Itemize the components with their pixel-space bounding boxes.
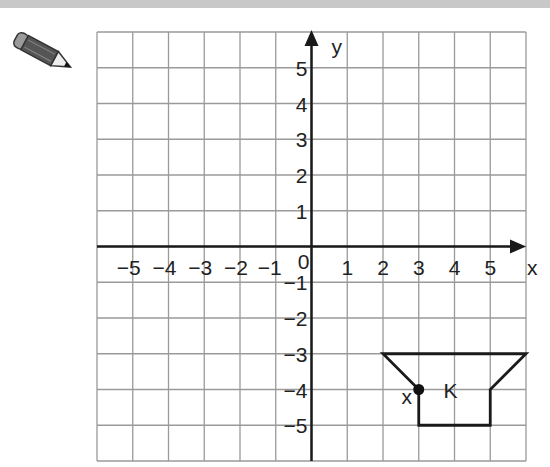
x-tick-label: −4 <box>153 256 177 279</box>
x-tick-label: 3 <box>413 256 425 279</box>
y-axis-label: y <box>332 35 343 58</box>
y-tick-label: −3 <box>284 343 308 366</box>
x-tick-label: 5 <box>484 256 496 279</box>
y-tick-label: 2 <box>296 164 308 187</box>
y-tick-label: 1 <box>296 200 308 223</box>
point-label: x <box>402 385 413 408</box>
y-tick-label: −4 <box>284 379 308 402</box>
x-axis-label: x <box>527 256 538 279</box>
x-tick-label: −3 <box>188 256 212 279</box>
point-marker <box>413 384 424 395</box>
origin-label: 0 <box>298 250 310 273</box>
x-tick-label: −1 <box>258 256 282 279</box>
y-tick-label: −1 <box>284 271 308 294</box>
x-tick-label: −2 <box>224 256 248 279</box>
y-tick-label: −2 <box>284 307 308 330</box>
axes <box>97 30 526 461</box>
x-tick-label: −5 <box>117 256 141 279</box>
y-tick-label: −5 <box>284 414 308 437</box>
x-axis-arrow-icon <box>510 240 526 254</box>
shape-label: K <box>443 379 457 402</box>
x-tick-label: 2 <box>377 256 389 279</box>
y-tick-label: 3 <box>296 128 308 151</box>
y-tick-label: 4 <box>296 93 308 116</box>
coordinate-grid: −5−4−3−2−112345054321−1−2−3−4−5 Kx x y <box>0 0 550 467</box>
x-tick-label: 1 <box>341 256 353 279</box>
x-tick-label: 4 <box>449 256 461 279</box>
y-tick-label: 5 <box>296 57 308 80</box>
